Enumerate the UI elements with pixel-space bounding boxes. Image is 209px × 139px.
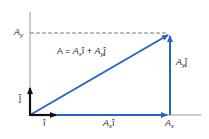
ay-vector-label: Ayĵ [176, 57, 187, 68]
ayv-unit: ĵ [185, 57, 187, 67]
ay-sub: y [20, 32, 23, 38]
j-hat-label: ĵ [19, 93, 21, 103]
i-hat-label: î [43, 118, 46, 128]
eq-sign: = [63, 46, 73, 56]
vector-equation: A = Axî + Ayĵ [57, 46, 106, 57]
vector-diagram: Ay A = Axî + Ayĵ Ayĵ ĵ î Axî Ax [0, 0, 209, 139]
ay-axis-label: Ay [14, 27, 23, 38]
ax-vector-label: Axî [103, 118, 115, 129]
axv-unit: î [112, 118, 115, 128]
eq-t2-unit: ĵ [104, 46, 106, 56]
ax-axis-label: Ax [165, 118, 174, 129]
eq-plus: + [84, 46, 94, 56]
ax-sub: x [171, 123, 174, 129]
